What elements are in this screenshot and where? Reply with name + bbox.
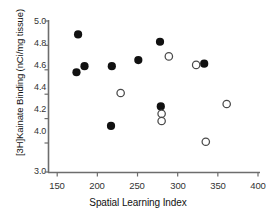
data-point-filled — [107, 122, 115, 130]
data-point-open — [223, 100, 230, 107]
data-point-filled — [74, 30, 82, 38]
data-point-open — [158, 117, 165, 124]
data-point-filled — [108, 62, 116, 70]
data-point-filled — [134, 56, 142, 64]
data-point-open — [202, 138, 209, 145]
data-point-filled — [80, 62, 88, 70]
axis-ticks — [45, 21, 259, 177]
data-point-filled — [200, 60, 208, 68]
plot-area — [0, 0, 276, 220]
data-point-open — [158, 110, 165, 117]
data-point-open — [192, 61, 199, 68]
data-point-open — [117, 89, 124, 96]
scatter-chart-figure: [3H]Kainate Binding (nCi/mg tissue) Spat… — [0, 0, 276, 220]
data-point-filled — [156, 38, 164, 46]
data-point-filled — [72, 68, 80, 76]
data-point-open — [165, 53, 172, 60]
data-points-layer — [72, 30, 230, 145]
data-point-filled — [157, 102, 165, 110]
